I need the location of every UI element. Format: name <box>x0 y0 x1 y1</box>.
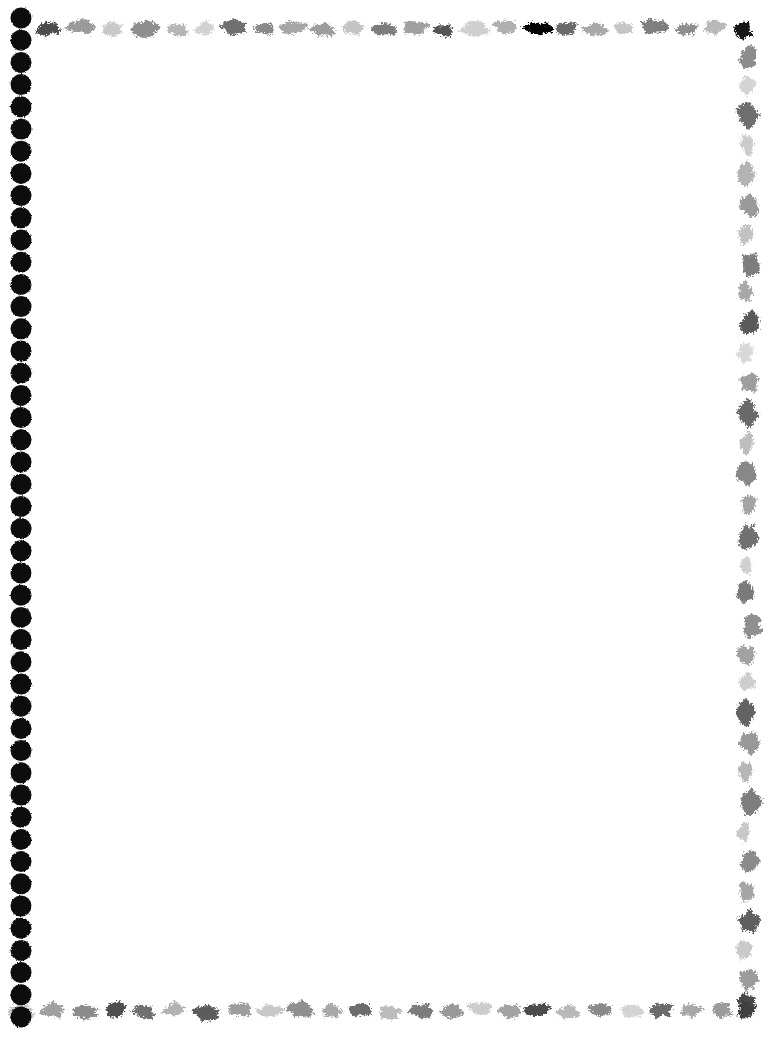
border-dot <box>11 918 32 939</box>
border-dot <box>11 119 32 140</box>
border-dot <box>11 563 32 584</box>
border-dot <box>11 762 32 783</box>
border-dot <box>11 74 32 95</box>
border-dot <box>11 52 32 73</box>
border-dot <box>11 696 32 717</box>
border-dot <box>11 341 32 362</box>
border-dot <box>11 318 32 339</box>
border-dot <box>11 185 32 206</box>
border-dot <box>11 518 32 539</box>
border-dot <box>11 8 32 29</box>
border-dot <box>11 96 32 117</box>
border-dot <box>11 629 32 650</box>
border-dot <box>11 807 32 828</box>
border-dot <box>11 674 32 695</box>
border-dot <box>11 496 32 517</box>
border-dot <box>11 429 32 450</box>
border-dot <box>11 363 32 384</box>
border-dot <box>11 1007 32 1028</box>
border-dot <box>11 940 32 961</box>
border-dot <box>11 651 32 672</box>
border-dot <box>11 607 32 628</box>
border-dot <box>11 30 32 51</box>
border-dot <box>11 873 32 894</box>
border-dot <box>11 740 32 761</box>
border-dot <box>11 230 32 251</box>
border-dot <box>11 896 32 917</box>
border-dot <box>11 540 32 561</box>
border-dot <box>11 274 32 295</box>
border-dot <box>11 296 32 317</box>
border-dot <box>11 829 32 850</box>
border-dot <box>11 984 32 1005</box>
border-dot <box>11 718 32 739</box>
border-dot <box>11 585 32 606</box>
border-dot <box>11 407 32 428</box>
border-dot <box>11 141 32 162</box>
border-dot <box>11 474 32 495</box>
border-dot <box>11 962 32 983</box>
border-dot <box>11 385 32 406</box>
border-dot <box>11 452 32 473</box>
border-dot <box>11 851 32 872</box>
border-dot <box>11 207 32 228</box>
stationery-page <box>0 0 778 1042</box>
content-area[interactable] <box>48 48 710 978</box>
border-dot <box>11 785 32 806</box>
border-dot <box>11 163 32 184</box>
border-dot <box>11 252 32 273</box>
